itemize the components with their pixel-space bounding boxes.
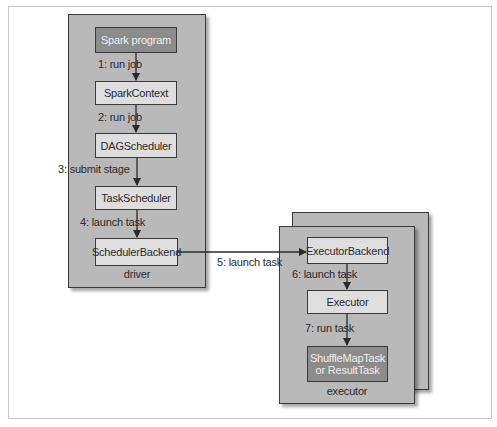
dag-scheduler-node: DAGScheduler: [95, 133, 177, 158]
executor-label: Executor: [327, 296, 369, 308]
spark-context-node: SparkContext: [95, 81, 177, 105]
driver-caption: driver: [68, 268, 206, 280]
scheduler-backend-label: SchedulerBackend: [92, 246, 181, 258]
executor-backend-node: ExecutorBackend: [307, 237, 388, 264]
spark-program-label: Spark program: [101, 34, 171, 46]
spark-context-label: SparkContext: [104, 87, 168, 99]
edge-label-2: 2: run job: [98, 111, 142, 123]
task-node: ShuffleMapTask or ResultTask: [307, 346, 388, 382]
executor-backend-label: ExecutorBackend: [306, 245, 389, 257]
dag-scheduler-label: DAGScheduler: [101, 140, 172, 152]
edge-label-5: 5: launch task: [217, 256, 282, 268]
task-scheduler-node: TaskScheduler: [95, 186, 177, 210]
edge-label-6: 6: launch task: [292, 268, 357, 280]
scheduler-backend-node: SchedulerBackend: [95, 238, 178, 266]
edge-label-7: 7: run task: [305, 322, 354, 334]
edge-label-4: 4: launch task: [80, 216, 145, 228]
task-scheduler-label: TaskScheduler: [101, 192, 171, 204]
edge-label-3: 3: submit stage: [58, 163, 130, 175]
executor-caption: executor: [279, 385, 415, 397]
task-label: ShuffleMapTask or ResultTask: [310, 352, 385, 376]
spark-program-node: Spark program: [95, 27, 177, 53]
edge-label-1: 1: run job: [98, 58, 142, 70]
executor-node: Executor: [307, 290, 388, 314]
